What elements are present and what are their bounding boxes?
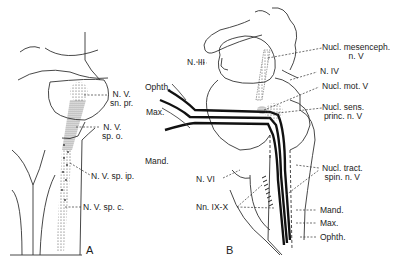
panel-letter-b: B <box>226 244 233 256</box>
label-line: princ. n. V <box>322 112 364 121</box>
label-n-iv: N. IV <box>320 67 339 76</box>
label-nv-sp-o: N. V. sp. o. <box>102 123 123 141</box>
label-n-vi: N. VI <box>196 175 215 184</box>
label-n-iii: N. III <box>187 58 205 67</box>
label-nucl-mesenceph: Nucl. mesenceph. n. V <box>322 43 390 61</box>
panel-letter-a: A <box>86 244 93 256</box>
label-line: spin. n. V <box>322 173 363 182</box>
label-nucl-mot-v: Nucl. mot. V <box>322 82 368 91</box>
label-line: n. V <box>322 52 390 61</box>
label-max-right: Max. <box>320 219 338 228</box>
label-line: sn. pr. <box>110 99 133 108</box>
label-mand-right: Mand. <box>320 206 344 215</box>
label-nn-ix-x: Nn. IX-X <box>196 203 228 212</box>
label-nucl-sens-princ: Nucl. sens. princ. n. V <box>322 103 364 121</box>
label-ophth-right: Ophth. <box>320 233 346 242</box>
label-mand-left: Mand. <box>145 157 169 166</box>
label-nv-sn-pr: N. V. sn. pr. <box>110 90 133 108</box>
diagram-drawing <box>0 0 409 263</box>
label-nv-sp-ip: N. V. sp. ip. <box>91 172 134 181</box>
label-ophth-left: Ophth. <box>145 83 171 92</box>
label-line: sp. o. <box>102 132 123 141</box>
panel-b-drawing <box>204 8 315 255</box>
label-nv-sp-c: N. V. sp. c. <box>83 203 124 212</box>
label-nucl-tract-spin: Nucl. tract. spin. n. V <box>322 164 363 182</box>
label-max-left: Max. <box>146 108 164 117</box>
